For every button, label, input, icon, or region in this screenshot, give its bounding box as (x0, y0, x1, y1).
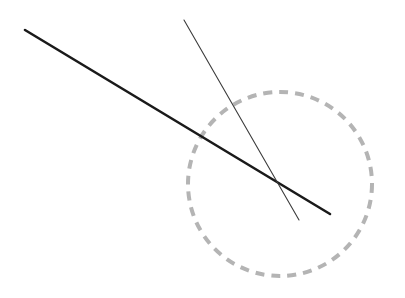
geometry-figure (0, 0, 405, 298)
canvas-background (0, 0, 405, 298)
figure-canvas (0, 0, 405, 298)
